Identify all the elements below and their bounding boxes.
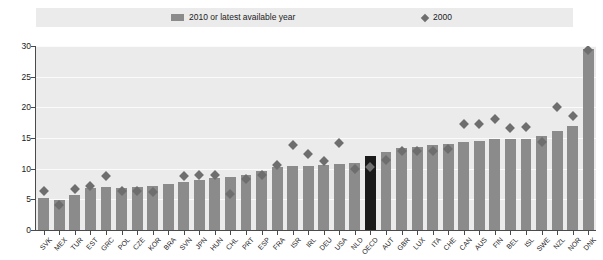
bar-aus (474, 141, 485, 230)
bar-irl (303, 166, 314, 230)
x-axis-tick-mark (479, 231, 480, 235)
y-axis-tick-mark (31, 199, 35, 200)
x-axis-tick-mark (59, 231, 60, 235)
x-axis-tick-mark (402, 231, 403, 235)
marker-nor (568, 111, 578, 121)
x-axis-tick-label-can: CAN (458, 236, 473, 252)
y-axis-tick-label: 5 (5, 195, 31, 204)
legend-entry: 2010 or latest available year (171, 8, 295, 27)
x-axis-tick-label-swe: SWE (535, 236, 551, 253)
bar-isr (287, 166, 298, 230)
x-axis-tick-label-hun: HUN (209, 236, 224, 252)
x-axis-tick-label-usa: USA (334, 236, 349, 251)
bar-deu (318, 165, 329, 230)
bar-dnk (583, 49, 594, 230)
legend-label: 2010 or latest available year (189, 13, 295, 22)
bar-svk (38, 198, 49, 230)
marker-grc (101, 171, 111, 181)
bar-hun (209, 178, 220, 230)
marker-fin (490, 114, 500, 124)
x-axis-tick-label-fin: FIN (491, 236, 504, 249)
x-axis-tick-mark (153, 231, 154, 235)
x-axis-tick-mark (433, 231, 434, 235)
x-axis-tick-mark (448, 231, 449, 235)
x-axis-tick-label-aus: AUS (474, 236, 489, 251)
y-axis-tick-label: 10 (5, 164, 31, 173)
x-axis-tick-mark (230, 231, 231, 235)
y-axis-tick-label: 15 (5, 134, 31, 143)
bar-grc (101, 187, 112, 230)
legend-entry: 2000 (422, 8, 452, 27)
bar-fra (272, 167, 283, 230)
x-axis-tick-mark (44, 231, 45, 235)
x-axis-tick-label-svn: SVN (178, 236, 193, 251)
x-axis-tick-mark (417, 231, 418, 235)
x-axis-tick-mark (573, 231, 574, 235)
chart-legend: 2010 or latest available year2000 (36, 8, 573, 27)
x-axis-tick-mark (370, 231, 371, 235)
bar-bel (505, 139, 516, 230)
plot-area (36, 46, 596, 230)
x-axis-tick-mark (262, 231, 263, 235)
marker-tur (70, 184, 80, 194)
gridline (36, 107, 596, 108)
y-axis-tick-mark (31, 230, 35, 231)
x-axis-tick-mark (90, 231, 91, 235)
x-axis-tick-mark (122, 231, 123, 235)
x-axis-tick-label-deu: DEU (318, 236, 333, 252)
x-axis-tick-mark (526, 231, 527, 235)
x-axis-tick-label-est: EST (85, 236, 99, 251)
marker-irl (303, 149, 313, 159)
gridline (36, 46, 596, 47)
x-axis-tick-mark (246, 231, 247, 235)
bar-usa (334, 164, 345, 230)
x-axis-tick-label-svk: SVK (38, 236, 53, 251)
x-axis-tick-label-che: CHE (442, 236, 457, 252)
bar-est (85, 188, 96, 230)
x-axis-tick-mark (168, 231, 169, 235)
bar-che (443, 144, 454, 230)
marker-isr (288, 140, 298, 150)
y-axis-tick-labels: 051015202530 (0, 0, 31, 260)
bar-svn (178, 182, 189, 230)
bar-gbr (396, 148, 407, 230)
bar-fin (489, 139, 500, 230)
marker-can (459, 119, 469, 129)
y-axis-tick-label: 30 (5, 42, 31, 51)
x-axis-tick-mark (464, 231, 465, 235)
x-axis-tick-label-ita: ITA (430, 236, 442, 248)
y-axis-tick-label: 0 (5, 226, 31, 235)
x-axis-tick-label-isr: ISR (289, 236, 302, 249)
y-axis-line (35, 46, 36, 231)
x-axis-tick-mark (137, 231, 138, 235)
x-axis-tick-label-irl: IRL (305, 236, 317, 249)
gridline (36, 77, 596, 78)
y-axis-tick-mark (31, 169, 35, 170)
y-axis-tick-mark (31, 107, 35, 108)
legend-label: 2000 (433, 13, 452, 22)
x-axis-tick-label-prt: PRT (241, 236, 255, 251)
x-axis-tick-mark (495, 231, 496, 235)
x-axis-tick-mark (184, 231, 185, 235)
bar-jpn (194, 180, 205, 230)
x-axis-tick-label-isl: ISL (523, 236, 535, 248)
x-axis-tick-mark (542, 231, 543, 235)
x-axis-tick-label-aut: AUT (381, 236, 396, 251)
x-axis-tick-label-kor: KOR (147, 236, 162, 252)
x-axis-tick-label-tur: TUR (69, 236, 84, 251)
bar-isl (521, 139, 532, 230)
x-axis-tick-label-bel: BEL (506, 236, 520, 251)
x-axis-tick-label-jpn: JPN (194, 236, 208, 251)
x-axis-tick-label-nor: NOR (566, 236, 582, 252)
x-axis-tick-label-nzl: NZL (552, 236, 566, 251)
x-axis-tick-label-mex: MEX (53, 236, 68, 252)
y-axis-tick-label: 20 (5, 103, 31, 112)
bar-lux (412, 147, 423, 230)
x-axis-tick-mark (510, 231, 511, 235)
x-axis-tick-label-esp: ESP (256, 236, 271, 251)
chart-figure: 2010 or latest available year2000 051015… (0, 0, 603, 260)
marker-jpn (194, 170, 204, 180)
x-axis-tick-label-oecd: OECD (361, 236, 380, 256)
legend-bar-swatch-icon (171, 14, 184, 21)
marker-nzl (552, 102, 562, 112)
